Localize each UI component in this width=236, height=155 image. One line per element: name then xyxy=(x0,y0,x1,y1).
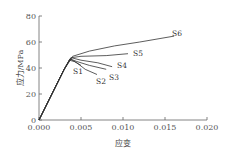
y-tick-label: 60 xyxy=(26,38,36,47)
stress-strain-chart: 0.0000.0050.0100.0150.020020406080 应变 应力… xyxy=(0,0,236,155)
y-axis-label: 应力/MPa xyxy=(15,49,25,86)
series-label-s4: S4 xyxy=(117,61,127,70)
series-lines xyxy=(39,36,174,120)
y-tick-label: 80 xyxy=(26,12,36,21)
series-label-s6: S6 xyxy=(172,29,182,38)
series-label-s1: S1 xyxy=(73,67,83,76)
series-label-s3: S3 xyxy=(109,73,119,82)
series-line-s6 xyxy=(39,36,174,120)
y-tick-label: 40 xyxy=(26,64,36,73)
y-tick-label: 20 xyxy=(26,90,36,99)
series-label-s5: S5 xyxy=(133,49,143,58)
x-axis-label: 应变 xyxy=(115,138,131,148)
tick-labels: 0.0000.0050.0100.0150.020020406080 xyxy=(26,12,219,132)
series-label-s2: S2 xyxy=(96,77,106,86)
x-tick-label: 0.010 xyxy=(112,123,135,132)
series-line-s2 xyxy=(39,59,97,120)
x-tick-label: 0.015 xyxy=(154,123,177,132)
y-tick-label: 0 xyxy=(31,116,36,125)
x-tick-label: 0.020 xyxy=(196,123,219,132)
x-tick-label: 0.005 xyxy=(70,123,93,132)
